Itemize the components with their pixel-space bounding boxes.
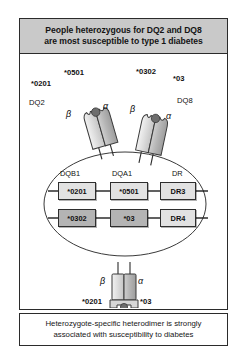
- dq8-alpha-chain-label: α: [166, 111, 171, 121]
- gene-box-dr-row1-label: DR3: [171, 187, 186, 196]
- gene-box-dr-row2[interactable]: DR4: [160, 209, 196, 227]
- dq8-beta-allele-label: *0302: [136, 67, 156, 76]
- gene-box-dqb1-row1[interactable]: *0201: [58, 182, 96, 200]
- header-line-2: are most susceptible to type 1 diabetes: [44, 36, 203, 47]
- heterodimer-alpha-allele-label: *03: [140, 297, 151, 306]
- diagram-graphics: [20, 54, 227, 308]
- gene-map-column-header-dr: DR: [172, 169, 183, 178]
- dq8-beta-chain-label: β: [130, 104, 135, 114]
- gene-map-column-header-dqb1: DQB1: [60, 169, 80, 178]
- dq2-beta-chain-label: β: [66, 109, 71, 119]
- gene-box-dqa1-row1-label: *0501: [119, 187, 138, 196]
- dq2-molecule-name: DQ2: [29, 98, 45, 107]
- heterodimer-beta-allele-label: *0201: [82, 297, 102, 306]
- header-text: People heterozygous for DQ2 and DQ8 are …: [38, 25, 209, 48]
- diagram-panel: *0201 *0501 DQ2 β α *0302 *03 β α DQ8 DQ…: [19, 54, 228, 310]
- header-line-1: People heterozygous for DQ2 and DQ8: [44, 25, 203, 36]
- gene-box-dqb1-row2-label: *0302: [67, 214, 86, 223]
- caption-line-2: associated with susceptibility to diabet…: [45, 330, 201, 341]
- heterodimer-beta-chain-label: β: [100, 276, 105, 286]
- gene-map-column-header-dqa1: DQA1: [112, 169, 132, 178]
- gene-box-dqb1-row1-label: *0201: [67, 187, 86, 196]
- caption-text: Heterozygote-specific heterodimer is str…: [39, 319, 207, 340]
- heterodimer-alpha-chain-label: α: [138, 276, 143, 286]
- gene-box-dqa1-row1[interactable]: *0501: [110, 182, 148, 200]
- gene-box-dr-row1[interactable]: DR3: [160, 182, 196, 200]
- gene-box-dqa1-row2[interactable]: *03: [110, 209, 148, 227]
- dq8-molecule-name: DQ8: [177, 96, 193, 105]
- dq2-alpha-chain-label: α: [103, 101, 108, 111]
- caption-line-1: Heterozygote-specific heterodimer is str…: [45, 319, 201, 330]
- heterodimer-molecule-graphic: [110, 262, 138, 308]
- dq2-alpha-allele-label: *0501: [64, 68, 84, 77]
- cell-ellipse: [44, 152, 206, 256]
- heterodimer-alpha-chain: [124, 274, 136, 300]
- dq2-beta-allele-label: *0201: [31, 79, 51, 88]
- figure-footer-caption: Heterozygote-specific heterodimer is str…: [19, 313, 228, 346]
- figure-header-banner: People heterozygous for DQ2 and DQ8 are …: [19, 18, 228, 54]
- dq8-alpha-allele-label: *03: [173, 74, 184, 83]
- gene-box-dqb1-row2[interactable]: *0302: [58, 209, 96, 227]
- gene-box-dr-row2-label: DR4: [171, 214, 186, 223]
- gene-box-dqa1-row2-label: *03: [123, 214, 134, 223]
- heterodimer-peptide-dot: [120, 303, 127, 308]
- heterodimer-beta-chain: [112, 274, 124, 300]
- figure-container: People heterozygous for DQ2 and DQ8 are …: [19, 18, 228, 346]
